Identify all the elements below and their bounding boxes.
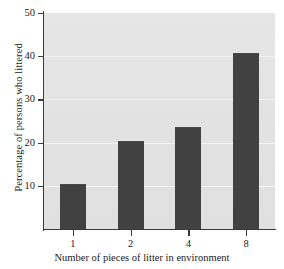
plot-area xyxy=(44,13,275,229)
x-axis-tick-mark xyxy=(131,230,132,236)
bar xyxy=(233,53,259,230)
y-axis-tick-mark xyxy=(38,143,44,144)
bar xyxy=(118,141,144,230)
y-axis-tick-mark xyxy=(38,99,44,100)
x-axis-tick-mark xyxy=(246,230,247,236)
bar-chart-figure: Percentage of persons who littered 10203… xyxy=(0,0,284,269)
x-axis-tick-mark xyxy=(188,230,189,236)
x-axis-tick-label: 2 xyxy=(116,238,146,249)
x-axis-title: Number of pieces of litter in environmen… xyxy=(0,252,284,263)
bar xyxy=(60,184,86,230)
x-axis-tick-label: 1 xyxy=(58,238,88,249)
x-axis-tick-label: 8 xyxy=(231,238,261,249)
y-axis-line xyxy=(43,11,44,231)
y-axis-tick-label: 10 xyxy=(0,181,35,191)
y-axis-tick-label: 50 xyxy=(0,8,35,18)
y-axis-tick-label: 30 xyxy=(0,94,35,104)
y-axis-tick-mark xyxy=(38,186,44,187)
y-axis-tick-mark xyxy=(38,56,44,57)
x-axis-tick-label: 4 xyxy=(173,238,203,249)
y-axis-tick-label: 20 xyxy=(0,138,35,148)
y-axis-tick-mark xyxy=(38,13,44,14)
x-axis-line xyxy=(43,229,276,230)
y-axis-tick-label: 40 xyxy=(0,51,35,61)
bar xyxy=(175,127,201,230)
x-axis-tick-mark xyxy=(73,230,74,236)
